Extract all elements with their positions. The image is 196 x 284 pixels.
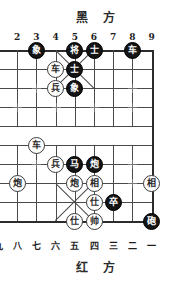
piece-glyph: 象 bbox=[32, 46, 41, 55]
red-soldier-2[interactable]: 兵 bbox=[47, 156, 64, 173]
file-label: 2 bbox=[10, 32, 24, 42]
star-point-marker bbox=[128, 160, 137, 169]
star-point-marker bbox=[32, 84, 41, 93]
piece-glyph: 炮 bbox=[13, 179, 22, 188]
star-point-marker bbox=[52, 103, 61, 112]
black-chariot[interactable]: 车 bbox=[124, 42, 141, 59]
file-label: 4 bbox=[49, 32, 63, 42]
star-point-marker bbox=[128, 179, 137, 188]
file-label: 一 bbox=[145, 239, 159, 252]
file-label: 七 bbox=[29, 239, 43, 252]
piece-glyph: 炮 bbox=[70, 179, 79, 188]
file-label: 3 bbox=[29, 32, 43, 42]
piece-glyph: 车 bbox=[32, 141, 41, 150]
red-cannon-1[interactable]: 炮 bbox=[9, 175, 26, 192]
red-soldier-1[interactable]: 兵 bbox=[47, 80, 64, 97]
piece-glyph: 炮 bbox=[90, 160, 99, 169]
piece-glyph: 帅 bbox=[90, 217, 99, 226]
red-chariot-2[interactable]: 车 bbox=[28, 137, 45, 154]
star-point-marker bbox=[128, 103, 137, 112]
red-general[interactable]: 帅 bbox=[86, 213, 103, 230]
star-point-marker bbox=[32, 160, 41, 169]
board-line bbox=[36, 145, 37, 221]
piece-glyph: 士 bbox=[70, 65, 79, 74]
piece-glyph: 兵 bbox=[51, 160, 60, 169]
piece-glyph: 砲 bbox=[147, 217, 156, 226]
black-general[interactable]: 将 bbox=[66, 42, 83, 59]
piece-glyph: 马 bbox=[70, 160, 79, 169]
file-label: 7 bbox=[106, 32, 120, 42]
board-line bbox=[17, 50, 18, 126]
black-elephant[interactable]: 象 bbox=[28, 42, 45, 59]
black-soldier[interactable]: 卒 bbox=[105, 194, 122, 211]
file-label: 四 bbox=[87, 239, 101, 252]
xiangqi-diagram: 黑 方 23456789 象将士车车士兵象车兵马炮炮炮相相仕卒仕帅砲 九八七六五… bbox=[0, 0, 196, 284]
black-cannon-1[interactable]: 炮 bbox=[86, 156, 103, 173]
file-label: 六 bbox=[49, 239, 63, 252]
piece-glyph: 车 bbox=[51, 65, 60, 74]
red-side-title: 红 方 bbox=[0, 258, 196, 275]
piece-glyph: 将 bbox=[70, 46, 79, 55]
board-line bbox=[0, 126, 152, 127]
file-label: 5 bbox=[68, 32, 82, 42]
board-line bbox=[0, 145, 152, 146]
piece-glyph: 仕 bbox=[70, 217, 79, 226]
red-cannon-2[interactable]: 炮 bbox=[66, 175, 83, 192]
file-label: 9 bbox=[145, 32, 159, 42]
piece-glyph: 象 bbox=[70, 84, 79, 93]
piece-glyph: 士 bbox=[90, 46, 99, 55]
piece-glyph: 相 bbox=[147, 179, 156, 188]
red-advisor-2[interactable]: 仕 bbox=[66, 213, 83, 230]
file-label: 二 bbox=[125, 239, 139, 252]
red-elephant-2[interactable]: 相 bbox=[143, 175, 160, 192]
red-elephant-1[interactable]: 相 bbox=[86, 175, 103, 192]
board-line bbox=[113, 50, 114, 126]
black-advisor-1[interactable]: 士 bbox=[86, 42, 103, 59]
board-grid: 象将士车车士兵象车兵马炮炮炮相相仕卒仕帅砲 bbox=[0, 45, 196, 235]
piece-glyph: 兵 bbox=[51, 84, 60, 93]
piece-glyph: 仕 bbox=[90, 198, 99, 207]
star-point-marker bbox=[13, 103, 22, 112]
file-label: 五 bbox=[68, 239, 82, 252]
file-label: 八 bbox=[10, 239, 24, 252]
file-label: 九 bbox=[0, 239, 5, 252]
red-chariot-1[interactable]: 车 bbox=[47, 61, 64, 78]
file-label: 6 bbox=[87, 32, 101, 42]
black-advisor-2[interactable]: 士 bbox=[66, 61, 83, 78]
black-elephant-2[interactable]: 象 bbox=[66, 80, 83, 97]
star-point-marker bbox=[90, 103, 99, 112]
black-cannon-2[interactable]: 砲 bbox=[143, 213, 160, 230]
black-horse[interactable]: 马 bbox=[66, 156, 83, 173]
piece-glyph: 卒 bbox=[109, 198, 118, 207]
black-side-title: 黑 方 bbox=[0, 8, 196, 25]
board-line bbox=[152, 50, 154, 221]
file-label: 三 bbox=[106, 239, 120, 252]
piece-glyph: 车 bbox=[128, 46, 137, 55]
star-point-marker bbox=[128, 84, 137, 93]
red-advisor-1[interactable]: 仕 bbox=[86, 194, 103, 211]
file-label: 8 bbox=[125, 32, 139, 42]
file-labels-bottom: 九八七六五四三二一 bbox=[0, 239, 196, 251]
piece-glyph: 相 bbox=[90, 179, 99, 188]
